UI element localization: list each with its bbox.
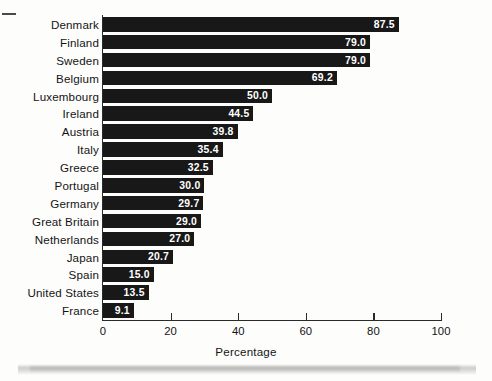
category-label: France xyxy=(0,304,99,318)
x-axis-line xyxy=(102,320,441,321)
bar-row: Austria39.8 xyxy=(0,123,492,141)
category-label: Ireland xyxy=(0,107,99,121)
bar-value-label: 32.5 xyxy=(188,162,209,173)
bar-value-label: 9.1 xyxy=(115,305,130,316)
bar-row: Sweden79.0 xyxy=(0,52,492,70)
bar-wrapper: 87.5 xyxy=(103,17,399,32)
bar-value-label: 29.0 xyxy=(176,216,197,227)
bar: 50.0 xyxy=(103,89,272,104)
bar-value-label: 30.0 xyxy=(179,180,200,191)
category-label: Finland xyxy=(0,36,99,50)
bar-wrapper: 27.0 xyxy=(103,232,194,247)
bar-value-label: 50.0 xyxy=(247,90,268,101)
x-axis-tick-label: 100 xyxy=(432,325,451,337)
bar-wrapper: 20.7 xyxy=(103,250,173,265)
category-label: Netherlands xyxy=(0,233,99,247)
bar: 79.0 xyxy=(103,53,370,68)
bar: 15.0 xyxy=(103,267,154,282)
bar: 32.5 xyxy=(103,160,213,175)
bar: 20.7 xyxy=(103,250,173,265)
bar-value-label: 15.0 xyxy=(129,269,150,280)
bar-value-label: 27.0 xyxy=(169,233,190,244)
bar-chart-plot-area: Denmark87.5Finland79.0Sweden79.0Belgium6… xyxy=(0,0,492,381)
bar: 9.1 xyxy=(103,303,134,318)
bar: 13.5 xyxy=(103,285,149,300)
bar-row: Germany29.7 xyxy=(0,195,492,213)
bar-row: Portugal30.0 xyxy=(0,177,492,195)
bar-row: Belgium69.2 xyxy=(0,70,492,88)
bar-row: Spain15.0 xyxy=(0,266,492,284)
bar: 79.0 xyxy=(103,35,370,50)
bar-wrapper: 50.0 xyxy=(103,89,272,104)
bar-row: Denmark87.5 xyxy=(0,16,492,34)
category-label: Austria xyxy=(0,125,99,139)
bar-row: Netherlands27.0 xyxy=(0,231,492,249)
bar: 35.4 xyxy=(103,142,223,157)
bar-wrapper: 32.5 xyxy=(103,160,213,175)
x-axis-tick xyxy=(373,313,374,321)
bar-value-label: 39.8 xyxy=(212,126,233,137)
bar-wrapper: 79.0 xyxy=(103,53,370,68)
category-label: Portugal xyxy=(0,179,99,193)
x-axis-tick xyxy=(171,313,172,321)
category-label: Japan xyxy=(0,251,99,265)
bar-row: Finland79.0 xyxy=(0,34,492,52)
bar-rows-container: Denmark87.5Finland79.0Sweden79.0Belgium6… xyxy=(0,16,492,320)
bar: 29.0 xyxy=(103,214,201,229)
category-label: Great Britain xyxy=(0,215,99,229)
bar-value-label: 79.0 xyxy=(345,37,366,48)
bar-row: Japan20.7 xyxy=(0,249,492,267)
x-axis-title: Percentage xyxy=(0,345,492,358)
bar-row: France9.1 xyxy=(0,302,492,320)
bar-row: Luxembourg50.0 xyxy=(0,88,492,106)
bar-wrapper: 29.0 xyxy=(103,214,201,229)
x-axis-tick xyxy=(238,313,239,321)
category-label: Sweden xyxy=(0,54,99,68)
x-axis-tick-label: 80 xyxy=(367,325,380,337)
x-axis-tick-label: 0 xyxy=(100,325,106,337)
category-label: Italy xyxy=(0,143,99,157)
bar: 69.2 xyxy=(103,71,337,86)
category-label: Belgium xyxy=(0,72,99,86)
bar-wrapper: 39.8 xyxy=(103,124,238,139)
bar-row: Ireland44.5 xyxy=(0,105,492,123)
x-axis-tick xyxy=(441,313,442,321)
bar-wrapper: 29.7 xyxy=(103,196,203,211)
category-label: Germany xyxy=(0,197,99,211)
category-label: Greece xyxy=(0,161,99,175)
category-label: Luxembourg xyxy=(0,90,99,104)
bar-wrapper: 30.0 xyxy=(103,178,204,193)
bar-wrapper: 9.1 xyxy=(103,303,134,318)
bar-value-label: 44.5 xyxy=(228,108,249,119)
bar-wrapper: 13.5 xyxy=(103,285,149,300)
bar: 44.5 xyxy=(103,106,253,121)
bar-wrapper: 79.0 xyxy=(103,35,370,50)
bar-wrapper: 69.2 xyxy=(103,71,337,86)
bar: 29.7 xyxy=(103,196,203,211)
bar-value-label: 69.2 xyxy=(312,72,333,83)
bar-value-label: 29.7 xyxy=(178,198,199,209)
bar-row: Italy35.4 xyxy=(0,141,492,159)
bar-value-label: 87.5 xyxy=(374,19,395,30)
bar-value-label: 13.5 xyxy=(124,287,145,298)
bar: 27.0 xyxy=(103,232,194,247)
bar-wrapper: 44.5 xyxy=(103,106,253,121)
chart-page: Denmark87.5Finland79.0Sweden79.0Belgium6… xyxy=(0,0,492,381)
bar-wrapper: 15.0 xyxy=(103,267,154,282)
bar-value-label: 20.7 xyxy=(148,251,169,262)
bar-value-label: 35.4 xyxy=(198,144,219,155)
bar: 39.8 xyxy=(103,124,238,139)
x-axis-tick xyxy=(306,313,307,321)
bar-value-label: 79.0 xyxy=(345,55,366,66)
bar: 87.5 xyxy=(103,17,399,32)
x-axis-tick-label: 40 xyxy=(232,325,245,337)
y-axis-line xyxy=(102,15,103,321)
bar-row: Great Britain29.0 xyxy=(0,213,492,231)
x-axis-tick-label: 60 xyxy=(300,325,313,337)
bar-row: United States13.5 xyxy=(0,284,492,302)
page-edge-shadow-core xyxy=(30,366,460,371)
bar-wrapper: 35.4 xyxy=(103,142,223,157)
category-label: Denmark xyxy=(0,18,99,32)
x-axis-tick-label: 20 xyxy=(164,325,177,337)
category-label: Spain xyxy=(0,268,99,282)
